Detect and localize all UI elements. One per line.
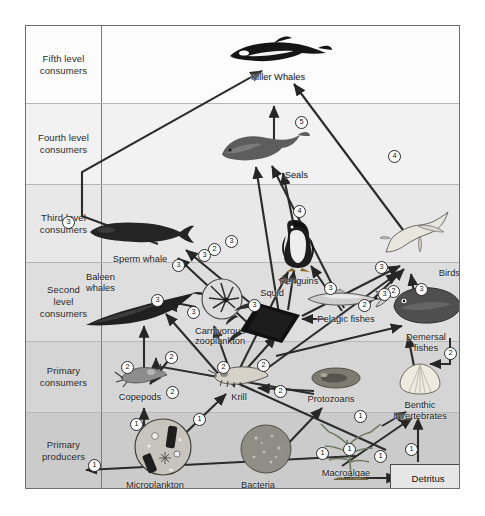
organism-label-protozoans: Protozoans [294, 394, 368, 405]
link-number-badge: 2 [358, 299, 371, 312]
link-number-badge: 2 [165, 351, 178, 364]
organism-label-birds: Birds [378, 268, 460, 279]
squid-icon [226, 299, 310, 347]
organism-label-microplankton: Microplankton [110, 480, 200, 489]
organism-label-benthic-invertebrates: Benthic invertebrates [378, 400, 460, 421]
link-number-badge: 3 [248, 299, 261, 312]
organism-copepods: Copepods [108, 362, 172, 403]
organism-label-penguins: Penguins [266, 276, 332, 287]
organism-killer-whales: Killer Whales [222, 34, 334, 83]
organism-label-krill: Krill [206, 392, 272, 403]
link-number-badge: 3 [378, 288, 391, 301]
orca-icon [222, 34, 334, 68]
pelagic-fish-icon [302, 288, 390, 310]
link-number-badge: 2 [444, 347, 457, 360]
link-number-badge: 5 [295, 116, 308, 129]
organism-bacteria: Bacteria [214, 424, 302, 489]
link-number-badge: 1 [343, 443, 356, 456]
link-number-badge: 2 [257, 359, 270, 372]
link-number-badge: 1 [405, 443, 418, 456]
organism-seals: Seals [216, 126, 312, 181]
organism-penguins: Penguins [266, 216, 332, 287]
detritus-label: Detritus [411, 473, 444, 484]
organism-label-copepods: Copepods [108, 392, 172, 403]
organism-microplankton: Microplankton [110, 418, 200, 489]
organism-label-bi-line1: Benthic [404, 400, 435, 410]
organism-label-seals: Seals [216, 170, 312, 181]
link-number-badge: 3 [324, 282, 337, 295]
link-number-badge: 2 [274, 385, 287, 398]
organism-label-squid: Squid [226, 288, 310, 299]
link-number-badge: 3 [225, 235, 238, 248]
seal-icon [216, 126, 312, 166]
organism-squid: Squid [226, 288, 310, 351]
bivalve-icon [397, 362, 443, 396]
detritus-box: Detritus [390, 464, 460, 489]
organism-label-pelagic-fishes: Pelagic fishes [302, 314, 390, 325]
link-number-badge: 1 [193, 413, 206, 426]
link-number-badge: 2 [217, 361, 230, 374]
bacteria-blob-icon [238, 424, 294, 476]
bird-icon [378, 208, 460, 264]
link-number-badge: 4 [388, 150, 401, 163]
food-web-diagram: Fifth level consumers Fourth level consu… [25, 25, 460, 489]
organism-label-df-line1: Demersal [406, 332, 446, 342]
organism-birds: Birds [378, 208, 460, 279]
link-number-badge: 2 [166, 386, 179, 399]
protozoan-icon [310, 366, 362, 390]
sperm-whale-icon [84, 216, 196, 250]
link-number-badge: 4 [293, 205, 306, 218]
link-number-badge: 1 [316, 447, 329, 460]
organism-label-bi-line2: invertebrates [393, 411, 447, 421]
link-number-badge: 3 [151, 294, 164, 307]
link-number-badge: 3 [187, 306, 200, 319]
link-number-badge: 3 [375, 261, 388, 274]
link-number-badge: 1 [374, 450, 387, 463]
organism-label-killer-whales: Killer Whales [222, 72, 334, 83]
link-number-badge: 1 [88, 459, 101, 472]
link-number-badge: 3 [172, 259, 185, 272]
organism-benthic-invertebrates: Benthic invertebrates [378, 362, 460, 421]
arrow-producers-detritus-return [146, 488, 450, 489]
link-number-badge: 2 [121, 361, 134, 374]
penguin-icon [266, 216, 332, 272]
figure-canvas: Fifth level consumers Fourth level consu… [0, 0, 485, 516]
link-number-badge: 1 [354, 410, 367, 423]
link-number-badge: 3 [415, 283, 428, 296]
organism-pelagic-fishes: Pelagic fishes [302, 288, 390, 325]
link-number-badge: 1 [130, 418, 143, 431]
organism-label-baleen-whales-line1: Baleen [86, 272, 115, 282]
link-number-badge: 3 [198, 249, 211, 262]
organism-protozoans: Protozoans [294, 366, 368, 405]
organism-sperm-whale: Sperm whale [84, 216, 196, 265]
link-number-badge: 3 [62, 216, 75, 229]
organism-label-bacteria: Bacteria [214, 480, 302, 489]
organism-label-df-line2: fishes [414, 343, 438, 353]
